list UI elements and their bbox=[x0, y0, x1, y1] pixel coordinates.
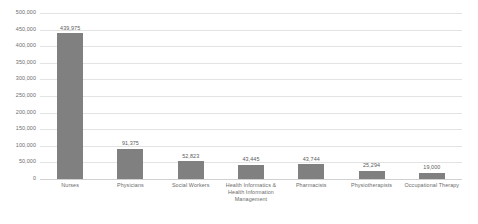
bar-slot: 19,000 bbox=[402, 13, 462, 179]
y-axis-tick-label: 250,000 bbox=[16, 93, 36, 98]
bar[interactable] bbox=[238, 165, 264, 179]
y-axis-tick-label: 50,000 bbox=[19, 160, 36, 165]
bar[interactable] bbox=[57, 33, 83, 179]
bar-slot: 91,375 bbox=[100, 13, 160, 179]
category-label-line: Health Informatics & bbox=[221, 182, 281, 189]
y-axis-tick-label: 450,000 bbox=[16, 27, 36, 32]
category-label-line: Physicians bbox=[100, 182, 160, 189]
x-axis-category-label: Physicians bbox=[100, 182, 160, 189]
x-axis-category-label: Social Workers bbox=[161, 182, 221, 189]
bar[interactable] bbox=[359, 171, 385, 179]
bar[interactable] bbox=[419, 173, 445, 179]
x-axis-category-label: Pharmacists bbox=[281, 182, 341, 189]
bar-value-label: 91,375 bbox=[122, 141, 139, 146]
y-axis-tick-label: 350,000 bbox=[16, 60, 36, 65]
category-label-line: Occupational Therapy bbox=[402, 182, 462, 189]
y-axis-tick-label: 150,000 bbox=[16, 126, 36, 131]
bar-value-label: 52,823 bbox=[182, 154, 199, 159]
bar-value-label: 439,975 bbox=[60, 26, 80, 31]
x-axis-category-label: Health Informatics &Health InformationMa… bbox=[221, 182, 281, 203]
bar-slot: 25,294 bbox=[341, 13, 401, 179]
category-label-line: Social Workers bbox=[161, 182, 221, 189]
x-axis-category-label: Occupational Therapy bbox=[402, 182, 462, 189]
category-label-line: Pharmacists bbox=[281, 182, 341, 189]
bar[interactable] bbox=[298, 164, 324, 179]
bar-slot: 439,975 bbox=[40, 13, 100, 179]
bar-slot: 43,744 bbox=[281, 13, 341, 179]
bar-slot: 52,823 bbox=[161, 13, 221, 179]
y-axis-tick-label: 0 bbox=[33, 176, 36, 181]
y-axis-tick-label: 400,000 bbox=[16, 43, 36, 48]
y-axis-tick-label: 300,000 bbox=[16, 77, 36, 82]
x-axis-category-label: Nurses bbox=[40, 182, 100, 189]
y-axis-tick-label: 100,000 bbox=[16, 143, 36, 148]
bar-value-label: 43,744 bbox=[303, 157, 320, 162]
bar-value-label: 25,294 bbox=[363, 163, 380, 168]
x-axis: NursesPhysiciansSocial WorkersHealth Inf… bbox=[40, 182, 462, 222]
bar-chart: 050,000100,000150,000200,000250,000300,0… bbox=[0, 0, 478, 224]
bar-slot: 43,445 bbox=[221, 13, 281, 179]
category-label-line: Management bbox=[221, 196, 281, 203]
x-axis-category-label: Physiotherapists bbox=[341, 182, 401, 189]
bar-value-label: 19,000 bbox=[423, 165, 440, 170]
y-axis: 050,000100,000150,000200,000250,000300,0… bbox=[0, 13, 36, 179]
bar[interactable] bbox=[117, 149, 143, 179]
bar-value-label: 43,445 bbox=[242, 157, 259, 162]
axis-baseline bbox=[40, 179, 462, 180]
y-axis-tick-label: 500,000 bbox=[16, 10, 36, 15]
bars-layer: 439,97591,37552,82343,44543,74425,29419,… bbox=[40, 13, 462, 179]
category-label-line: Physiotherapists bbox=[341, 182, 401, 189]
y-axis-tick-label: 200,000 bbox=[16, 110, 36, 115]
category-label-line: Nurses bbox=[40, 182, 100, 189]
category-label-line: Health Information bbox=[221, 189, 281, 196]
bar[interactable] bbox=[178, 161, 204, 179]
